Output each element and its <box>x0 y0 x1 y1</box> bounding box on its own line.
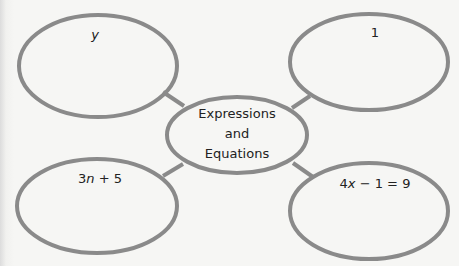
center-title-line-3: Equations <box>182 144 292 164</box>
connector-bottom-left <box>163 164 183 176</box>
expression-3n-plus-5: 3n + 5 <box>78 171 122 186</box>
equation-4x-minus-1-equals-9: 4x − 1 = 9 <box>340 176 411 191</box>
center-title: Expressions and Equations <box>182 104 292 164</box>
center-title-line-2: and <box>182 124 292 144</box>
center-title-line-1: Expressions <box>182 104 292 124</box>
connector-bottom-right <box>293 163 313 177</box>
node-top-left-text: y <box>75 27 115 42</box>
connector-top-right <box>292 96 310 108</box>
node-bottom-right-text: 4x − 1 = 9 <box>330 176 420 191</box>
node-bottom-left-text: 3n + 5 <box>60 171 140 186</box>
node-top-right-text: 1 <box>355 25 395 40</box>
